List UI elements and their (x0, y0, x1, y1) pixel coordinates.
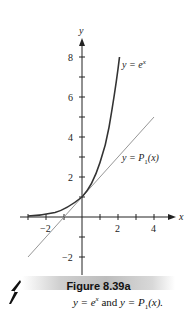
y-axis-arrow-icon (79, 38, 85, 46)
figure-caption: y = ex and y = P1(x). (40, 293, 196, 309)
x-tick-label: 2 (115, 223, 120, 234)
y-tick-label: 8 (68, 52, 73, 63)
caption-eq-a: y = e (73, 296, 96, 308)
y-tick-label: −2 (62, 252, 73, 263)
chart-plot: x y −2 2 4 8 6 4 2 −2 y = ex y = (0, 0, 196, 275)
y-tick-label: 4 (68, 132, 73, 143)
x-tick-label: −2 (40, 223, 51, 234)
x-axis-label: x (178, 211, 184, 222)
figure-title-bar: Figure 8.39a (22, 276, 175, 290)
y-axis-label: y (78, 25, 84, 36)
figure-title: Figure 8.39a (66, 280, 130, 292)
x-tick-label: 4 (151, 223, 156, 234)
caption-eq-b-end: (x). (148, 296, 163, 308)
pointer-arrow-icon (8, 280, 22, 304)
y-tick-label: 2 (68, 172, 73, 183)
caption-eq-b: y = P (120, 296, 145, 308)
tangent-line-p1 (28, 117, 154, 257)
x-axis-arrow-icon (168, 214, 176, 220)
exp-curve (28, 57, 120, 216)
exp-curve-label: y = ex (121, 58, 147, 70)
caption-and: and (99, 296, 120, 308)
y-tick-label: 6 (68, 92, 73, 103)
tangent-line-label: y = P1(x) (121, 152, 160, 166)
